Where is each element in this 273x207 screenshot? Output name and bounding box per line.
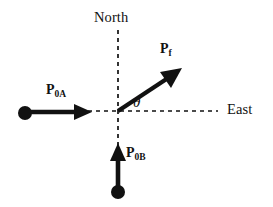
particle-dot-a [18, 106, 32, 120]
vector-pf-shaft [118, 78, 168, 111]
north-axis-label: North [94, 10, 128, 25]
vector-p0b-arrowhead [110, 143, 126, 161]
vector-symbol-p0b: P [126, 145, 135, 160]
momentum-vector-diagram: North East P0A P0B Pf θ [0, 0, 273, 207]
vector-label-p0b: P0B [126, 146, 146, 162]
vector-label-p0a: P0A [46, 83, 66, 99]
east-axis-label: East [227, 102, 252, 117]
vector-label-pf: Pf [160, 42, 172, 58]
vector-pf-arrowhead [160, 68, 182, 88]
vector-symbol-pf: P [160, 41, 169, 56]
vector-symbol-p0a: P [46, 82, 55, 97]
vector-subscript-pf: f [169, 48, 172, 58]
vector-subscript-p0b: 0B [135, 152, 146, 162]
angle-theta-label: θ [133, 95, 140, 110]
vector-subscript-p0a: 0A [55, 89, 67, 99]
vector-p0a-arrowhead [74, 104, 92, 120]
